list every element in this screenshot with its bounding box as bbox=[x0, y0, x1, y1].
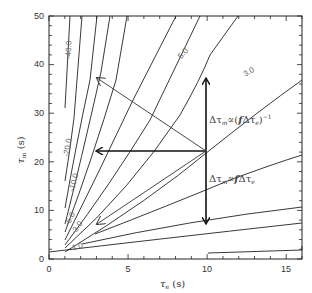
x-tick-0: 0 bbox=[46, 264, 51, 274]
contour-chart: 0 5 10 15 0 10 20 30 40 50 τe (s) τm (s)… bbox=[0, 0, 312, 293]
axis-ticks bbox=[49, 16, 302, 259]
arrow-down-left bbox=[97, 151, 206, 224]
annotation-inverse: Δτm∝(fΔτe)−1 bbox=[209, 113, 272, 126]
contour-label-1: 1.0 bbox=[71, 241, 85, 253]
y-tick-20: 20 bbox=[34, 157, 44, 167]
x-tick-15: 15 bbox=[281, 264, 291, 274]
y-axis-title: τm (s) bbox=[15, 136, 27, 163]
contour-5 bbox=[65, 16, 238, 248]
y-tick-40: 40 bbox=[34, 59, 44, 69]
contour-c bbox=[95, 155, 302, 234]
contour-label-3: 3.0 bbox=[242, 65, 257, 79]
y-tick-30: 30 bbox=[34, 108, 44, 118]
x-tick-5: 5 bbox=[125, 264, 130, 274]
contour-minus-40 bbox=[65, 16, 70, 108]
y-tick-0: 0 bbox=[39, 254, 44, 264]
plot-frame bbox=[49, 16, 302, 259]
annotation-proportional: Δτm∝fΔτe bbox=[209, 173, 255, 185]
y-tick-labels: 0 10 20 30 40 50 bbox=[34, 11, 44, 264]
y-tick-10: 10 bbox=[34, 205, 44, 215]
annotations: Δτm∝(fΔτe)−1 Δτm∝fΔτe bbox=[209, 113, 272, 185]
contour-label-minus-10: -10.0 bbox=[67, 172, 81, 192]
contour-minus-3 bbox=[65, 16, 176, 240]
y-tick-50: 50 bbox=[34, 11, 44, 21]
contour-e bbox=[208, 246, 302, 253]
contour-label-minus-20: -20.0 bbox=[62, 137, 74, 157]
contour-label-minus-40: -40.0 bbox=[64, 40, 74, 59]
contour-label-5: 5.0 bbox=[176, 46, 190, 61]
x-tick-10: 10 bbox=[202, 264, 212, 274]
contour-lines bbox=[49, 16, 302, 253]
contour-minus-5 bbox=[65, 16, 127, 232]
arrow-up-left bbox=[97, 78, 206, 151]
x-axis-title: τe (s) bbox=[160, 278, 185, 290]
contour-1 bbox=[82, 207, 302, 244]
x-tick-labels: 0 5 10 15 bbox=[46, 264, 291, 274]
arrows bbox=[97, 78, 206, 224]
